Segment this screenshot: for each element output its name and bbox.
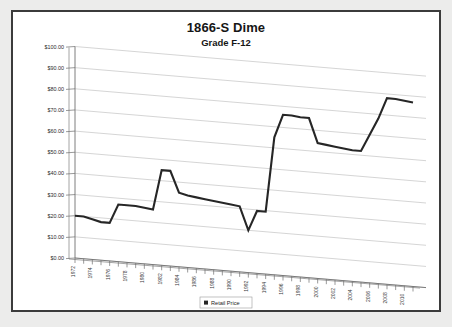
x-tick-label: 1976 <box>105 269 111 280</box>
gridlines <box>75 47 426 288</box>
y-tick-label: $20.00 <box>48 213 65 219</box>
x-tick-label: 1978 <box>122 270 128 281</box>
x-tick-label: 1992 <box>243 280 249 291</box>
y-tick <box>66 47 75 48</box>
x-tick-label: 1980 <box>139 272 145 283</box>
x-tick-label: 2000 <box>313 286 319 297</box>
y-tick-label: $10.00 <box>48 234 65 240</box>
x-tick-label: 2008 <box>382 292 388 303</box>
y-tick-label: $50.00 <box>48 149 65 155</box>
x-tick-label: 1982 <box>157 273 163 284</box>
line-retail-price <box>75 98 413 230</box>
gridline <box>75 68 426 98</box>
y-tick <box>66 216 75 217</box>
x-tick-label: 1972 <box>70 266 76 277</box>
y-tick <box>66 110 75 111</box>
y-tick <box>66 237 75 238</box>
x-tick-label: 1994 <box>261 282 267 293</box>
y-tick <box>66 258 75 259</box>
gridline <box>75 110 426 140</box>
chart-frame: 1866-S Dime Grade F-12 $0.00$10.00$20.00… <box>11 10 441 312</box>
x-tick-label: 1990 <box>226 279 232 290</box>
y-tick-label: $90.00 <box>48 65 65 71</box>
gridline <box>75 131 426 161</box>
x-tick-label: 1998 <box>295 285 301 296</box>
gridline <box>75 47 426 77</box>
series-retail-price <box>75 98 413 230</box>
x-tick-label: 1988 <box>209 277 215 288</box>
x-tick-label: 1986 <box>191 276 197 287</box>
gridline <box>75 152 426 182</box>
x-tick-label: 1984 <box>174 275 180 286</box>
y-tick <box>66 68 75 69</box>
y-tick <box>66 131 75 132</box>
y-axis: $0.00$10.00$20.00$30.00$40.00$50.00$60.0… <box>45 44 76 262</box>
gridline <box>75 195 426 225</box>
x-tick-label: 1996 <box>278 283 284 294</box>
gridline <box>75 216 426 246</box>
y-tick <box>66 89 75 90</box>
legend[interactable]: Retail Price <box>200 297 252 308</box>
x-tick-label: 2002 <box>330 288 336 299</box>
y-tick-label: $30.00 <box>48 192 65 198</box>
x-tick-label: 2006 <box>365 291 371 302</box>
y-tick-label: $100.00 <box>45 44 65 50</box>
y-tick-label: $40.00 <box>48 170 65 176</box>
plot-area: $0.00$10.00$20.00$30.00$40.00$50.00$60.0… <box>13 12 439 310</box>
legend-swatch-icon <box>204 301 208 305</box>
y-tick-label: $70.00 <box>48 107 65 113</box>
legend-label: Retail Price <box>211 300 240 306</box>
chart-canvas: 1866-S Dime Grade F-12 $0.00$10.00$20.00… <box>13 12 439 310</box>
gridline <box>75 89 426 119</box>
gridline <box>75 173 426 203</box>
y-tick <box>66 152 75 153</box>
screenshot-root: 1866-S Dime Grade F-12 $0.00$10.00$20.00… <box>0 0 452 327</box>
x-tick-label: 1974 <box>87 267 93 278</box>
y-tick <box>66 173 75 174</box>
y-tick-label: $60.00 <box>48 128 65 134</box>
x-tick-label: 2004 <box>347 289 353 300</box>
y-tick-label: $80.00 <box>48 86 65 92</box>
x-tick-label: 2010 <box>399 294 405 305</box>
y-tick <box>66 195 75 196</box>
y-tick-label: $0.00 <box>51 255 65 261</box>
